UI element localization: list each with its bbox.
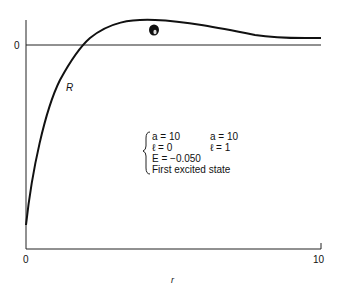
legend-brace-icon xyxy=(143,132,150,174)
x-tick-zero: 0 xyxy=(23,254,29,265)
x-axis-label: r xyxy=(171,275,174,286)
legend-l-left: ℓ = 0 xyxy=(152,142,210,153)
smudge-mark xyxy=(149,25,159,36)
legend-l-right: ℓ = 1 xyxy=(210,142,230,153)
legend-energy: E = −0.050 xyxy=(152,153,201,164)
legend-a-right: a = 10 xyxy=(210,131,238,142)
x-tick-ten: 10 xyxy=(313,254,324,265)
legend-row-energy: E = −0.050 xyxy=(152,153,238,164)
legend-a-left: a = 10 xyxy=(152,131,210,142)
legend-row-a: a = 10 a = 10 xyxy=(152,131,238,142)
curve-label: R xyxy=(66,82,73,93)
y-tick-zero: 0 xyxy=(14,40,20,51)
parameter-legend: a = 10 a = 10 ℓ = 0 ℓ = 1 E = −0.050 Fir… xyxy=(152,131,238,175)
legend-row-l: ℓ = 0 ℓ = 1 xyxy=(152,142,238,153)
legend-state: First excited state xyxy=(152,164,230,175)
legend-row-state: First excited state xyxy=(152,164,238,175)
radial-curve-R xyxy=(26,20,321,225)
